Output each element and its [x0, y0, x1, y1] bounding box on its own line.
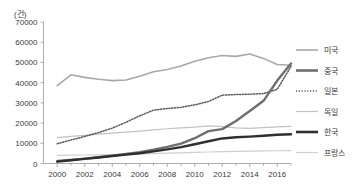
legend-label: 일본	[324, 87, 338, 96]
series-line	[57, 151, 291, 156]
legend-label: 독일	[324, 108, 338, 117]
series-line	[57, 134, 291, 161]
y-tick-label: 60000	[15, 38, 38, 47]
y-tick-label: 50000	[15, 58, 38, 67]
series-line	[57, 54, 291, 86]
x-tick-label: 2016	[268, 170, 286, 179]
y-tick-label: 30000	[15, 99, 38, 108]
x-tick-label: 2004	[103, 170, 121, 179]
legend-label: 프랑스	[324, 148, 345, 158]
x-tick-label: 2000	[48, 170, 66, 179]
x-axis-ticks: 200020022004200620082010201220142016	[48, 164, 291, 179]
legend-label: 미국	[324, 46, 338, 55]
chart-canvas: (건) 010000200003000040000500006000070000…	[0, 0, 360, 187]
x-tick-label: 2006	[131, 170, 149, 179]
x-tick-label: 2010	[186, 170, 204, 179]
y-tick-label: 0	[33, 160, 38, 169]
x-tick-label: 2014	[241, 170, 259, 179]
x-tick-label: 2002	[76, 170, 94, 179]
line-chart-figure: (건) 010000200003000040000500006000070000…	[0, 0, 360, 187]
chart-legend: 미국중국일본독일한국프랑스	[296, 46, 345, 158]
axes	[44, 22, 292, 164]
legend-label: 중국	[324, 67, 338, 76]
y-tick-label: 10000	[15, 139, 38, 148]
y-tick-label: 40000	[15, 79, 38, 88]
y-tick-label: 70000	[15, 18, 38, 27]
y-tick-label: 20000	[15, 119, 38, 128]
legend-label: 한국	[324, 128, 338, 137]
y-axis-ticks: 010000200003000040000500006000070000	[15, 18, 43, 169]
data-series-group	[57, 54, 291, 162]
x-tick-label: 2012	[213, 170, 231, 179]
x-tick-label: 2008	[158, 170, 176, 179]
